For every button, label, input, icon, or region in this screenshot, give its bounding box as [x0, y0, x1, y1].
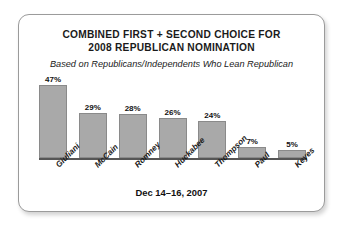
bar-value-label: 26%: [151, 108, 195, 117]
chart-bar: [39, 85, 67, 158]
bar-slot: 29%: [79, 77, 107, 158]
bar-slot: 26%: [159, 77, 187, 158]
bar-slot: 28%: [119, 77, 147, 158]
chart-title-line-1: COMBINED FIRST + SECOND CHOICE FOR: [19, 28, 324, 41]
bar-value-label: 47%: [31, 75, 75, 84]
bar-value-label: 24%: [190, 111, 234, 120]
bar-slot: 47%: [39, 77, 67, 158]
bar-value-label: 28%: [111, 104, 155, 113]
chart-bar: [79, 113, 107, 158]
chart-card: COMBINED FIRST + SECOND CHOICE FOR 2008 …: [18, 14, 325, 212]
chart-title: COMBINED FIRST + SECOND CHOICE FOR 2008 …: [19, 28, 324, 54]
bar-value-label: 29%: [71, 103, 115, 112]
chart-footer-date: Dec 14–16, 2007: [19, 187, 324, 198]
chart-bar: [119, 114, 147, 158]
chart-subtitle: Based on Republicans/Independents Who Le…: [19, 58, 324, 70]
chart-title-line-2: 2008 REPUBLICAN NOMINATION: [19, 41, 324, 54]
bar-slot: 5%: [278, 77, 306, 158]
